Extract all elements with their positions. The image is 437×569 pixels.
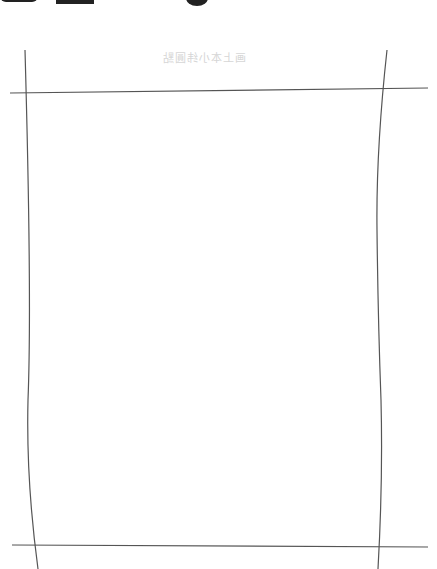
bottom-horizontal-line [12, 545, 428, 547]
top-horizontal-line [10, 88, 428, 93]
crop-marks [0, 0, 437, 569]
right-vertical-line [377, 50, 387, 569]
left-vertical-line [25, 50, 38, 569]
